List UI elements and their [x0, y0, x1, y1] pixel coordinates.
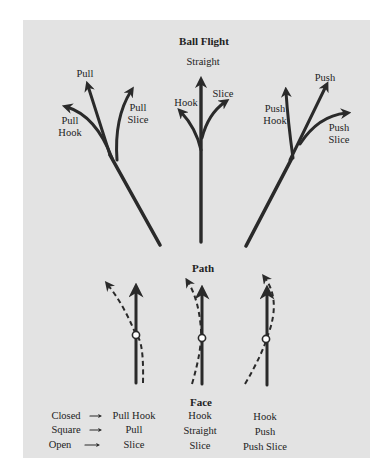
- label-push-slice-2: Slice: [329, 134, 350, 145]
- flight-group-push: Push Push Hook Push Slice: [246, 72, 350, 246]
- legend-cell: Straight: [183, 425, 216, 436]
- legend-cell: Hook: [253, 411, 277, 422]
- push-trunk: [246, 158, 292, 246]
- legend-cell: Hook: [188, 410, 212, 421]
- hook-arrow: [181, 112, 201, 150]
- push-hook-arrow: [286, 92, 293, 158]
- legend-cell: Push: [255, 426, 276, 437]
- label-pull-slice-2: Slice: [128, 114, 149, 125]
- path-diagram-straight: [188, 282, 206, 384]
- impact-point-icon: [132, 331, 139, 338]
- label-slice: Slice: [213, 88, 234, 99]
- pull-trunk: [110, 155, 160, 245]
- legend-cell: Pull Hook: [113, 410, 157, 421]
- label-hook: Hook: [174, 97, 198, 108]
- label-pull-hook-1: Pull: [62, 115, 79, 126]
- legend-face-square: Square: [51, 424, 80, 435]
- legend-face-open: Open: [49, 439, 72, 450]
- slice-arrow: [202, 102, 225, 138]
- legend-cell: Push Slice: [243, 441, 287, 452]
- label-push-hook-2: Hook: [263, 115, 287, 126]
- face-path-dashed: [188, 282, 201, 384]
- flight-group-straight: Straight Hook Slice: [174, 56, 234, 242]
- label-pull-slice-1: Pull: [130, 102, 147, 113]
- title: Ball Flight: [179, 35, 229, 47]
- face-path-dashed: [245, 278, 274, 384]
- legend-face-closed: Closed: [51, 410, 81, 421]
- legend-cell: Pull: [126, 424, 143, 435]
- path-diagram-pull: [108, 285, 143, 383]
- legend-table: Closed Pull Hook Hook Hook Square Pull S…: [49, 410, 288, 452]
- label-pull-hook-2: Hook: [58, 127, 82, 138]
- impact-point-icon: [262, 335, 269, 342]
- label-push-slice-1: Push: [329, 122, 350, 133]
- ball-flight-diagram: Ball Flight Pull Pull Hook Pull Slice St…: [0, 0, 387, 476]
- face-label: Face: [190, 396, 212, 408]
- label-push: Push: [315, 72, 336, 83]
- path-label: Path: [192, 262, 214, 274]
- label-pull: Pull: [77, 68, 94, 79]
- path-diagram-push: [245, 278, 274, 385]
- legend-cell: Slice: [124, 439, 145, 450]
- impact-point-icon: [198, 334, 205, 341]
- label-push-hook-1: Push: [265, 103, 286, 114]
- label-straight: Straight: [186, 56, 219, 67]
- flight-group-pull: Pull Pull Hook Pull Slice: [58, 68, 160, 245]
- legend-cell: Slice: [190, 440, 211, 451]
